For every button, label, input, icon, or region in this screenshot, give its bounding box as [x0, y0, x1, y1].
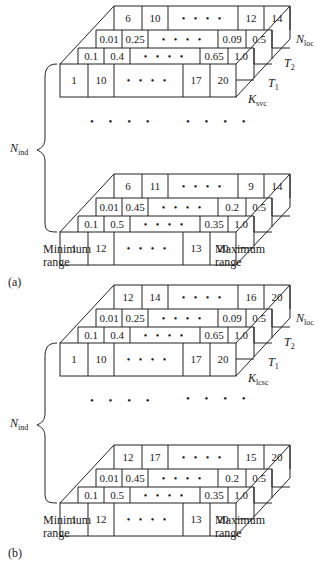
label-k-main: K: [248, 92, 256, 106]
cell-value: 0.35: [204, 489, 223, 501]
cell-value: 20: [272, 291, 283, 303]
ellipsis-dots: • • • •: [127, 354, 170, 365]
ellipsis-dots: • • • •: [144, 219, 187, 230]
label-minimum-range: range: [43, 255, 70, 270]
cell-value: 16: [246, 291, 257, 303]
ellipsis-dots: • • • •: [127, 243, 170, 254]
ellipsis-dots-right: • • • •: [186, 392, 252, 404]
ellipsis-dots: • • • •: [182, 452, 225, 463]
label-n-loc: Nloc: [296, 32, 314, 48]
label-n-ind: Nind: [10, 416, 28, 432]
cell-value: 0.1: [84, 50, 98, 62]
label-t2: T2: [284, 56, 295, 72]
ellipsis-dots: • • • •: [144, 490, 187, 501]
ellipsis-dots-left: • • • •: [90, 394, 156, 406]
cell-value: 0.2: [225, 472, 239, 484]
label-t1-sub: 1: [275, 83, 279, 92]
cell-value: 1: [71, 74, 77, 86]
label-n-loc: Nloc: [296, 311, 314, 327]
cell-value: 0.09: [222, 312, 241, 324]
cell-value: 0.65: [204, 329, 223, 341]
cell-value: 20: [218, 353, 229, 365]
ellipsis-dots: • • • •: [182, 13, 225, 24]
cell-value: 14: [272, 12, 283, 24]
cell-value: 10: [96, 74, 107, 86]
ellipsis-dots: • • • •: [144, 51, 187, 62]
cell-value: 1.0: [234, 50, 248, 62]
cell-value: 12: [246, 12, 257, 24]
label-k: Klcsc: [248, 371, 268, 387]
label-n-ind-sub: ind: [18, 148, 28, 157]
cell-value: 1.0: [234, 489, 248, 501]
cell-value: 0.25: [125, 312, 144, 324]
cell-value: 9: [248, 180, 254, 192]
cell-value: 0.45: [125, 201, 144, 213]
cell-value: 12: [96, 513, 107, 525]
brace-n-ind-b: [37, 343, 57, 503]
cell-value: 17: [191, 353, 202, 365]
cell-value: 20: [218, 74, 229, 86]
brace-n-ind: [37, 64, 57, 232]
cell-value: 0.65: [204, 50, 223, 62]
label-t1-main: T: [268, 76, 275, 90]
cell-value: 0.01: [99, 201, 118, 213]
cell-value: 15: [246, 451, 257, 463]
ellipsis-dots-right: • • • •: [186, 115, 252, 127]
cell-value: 10: [96, 353, 107, 365]
cell-value: 20: [272, 451, 283, 463]
cell-value: 6: [125, 12, 131, 24]
label-t1-main: T: [268, 355, 275, 369]
cell-value: 0.09: [222, 33, 241, 45]
cell-value: 0.5: [252, 201, 266, 213]
ellipsis-dots: • • • •: [162, 202, 205, 213]
cell-value: 0.1: [84, 218, 98, 230]
label-n-ind-main: N: [10, 416, 18, 430]
label-t1-sub: 1: [275, 362, 279, 371]
label-t1: T1: [268, 355, 279, 371]
cell-value: 0.5: [110, 218, 124, 230]
label-maximum-range: range: [215, 255, 242, 270]
cell-value: 0.5: [252, 472, 266, 484]
label-k-sub: lcsc: [256, 378, 268, 387]
cell-value: 1.0: [234, 329, 248, 341]
label-n-loc-sub: loc: [304, 318, 314, 327]
cell-value: 12: [96, 242, 107, 254]
ellipsis-dots: • • • •: [182, 292, 225, 303]
label-t2: T2: [284, 335, 295, 351]
cell-value: 13: [191, 242, 202, 254]
label-k-main: K: [248, 371, 256, 385]
cell-value: 1: [71, 353, 77, 365]
label-n-ind-main: N: [10, 141, 18, 155]
cell-value: 0.25: [125, 33, 144, 45]
cell-value: 1.0: [234, 218, 248, 230]
cell-value: 6: [125, 180, 131, 192]
label-maximum-range: range: [215, 526, 242, 541]
label-n-ind-sub: ind: [18, 423, 28, 432]
label-t2-main: T: [284, 335, 291, 349]
cell-value: 17: [191, 74, 202, 86]
cell-value: 0.5: [252, 312, 266, 324]
label-t1: T1: [268, 76, 279, 92]
label-n-loc-sub: loc: [304, 39, 314, 48]
cell-value: 12: [123, 451, 134, 463]
label-k: Ksvc: [248, 92, 267, 108]
ellipsis-dots: • • • •: [182, 181, 225, 192]
cell-value: 0.4: [110, 329, 124, 341]
cell-value: 11: [150, 180, 161, 192]
cell-value: 0.4: [110, 50, 124, 62]
panel-caption: (b): [8, 546, 22, 561]
cell-value: 0.45: [125, 472, 144, 484]
label-n-ind: Nind: [10, 141, 28, 157]
cell-value: 10: [150, 12, 161, 24]
cell-value: 0.2: [225, 201, 239, 213]
cell-value: 0.01: [99, 33, 118, 45]
ellipsis-dots: • • • •: [162, 473, 205, 484]
cell-value: 0.1: [84, 489, 98, 501]
cell-value: 12: [123, 291, 134, 303]
label-minimum-range: range: [43, 526, 70, 541]
label-k-sub: svc: [256, 99, 267, 108]
ellipsis-dots-left: • • • •: [90, 115, 156, 127]
label-t2-main: T: [284, 56, 291, 70]
label-t2-sub: 2: [291, 63, 295, 72]
cell-value: 14: [150, 291, 161, 303]
